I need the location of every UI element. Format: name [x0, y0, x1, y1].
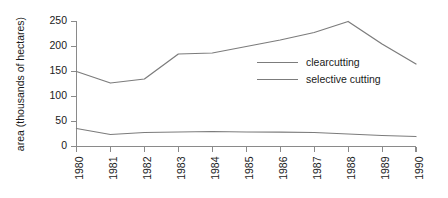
line-chart: area (thousands of hectares) 0 50 100 15… [0, 0, 448, 198]
x-tick-label-1983: 1983 [175, 156, 187, 180]
y-tick-label-0: 0 [61, 139, 67, 151]
y-tick-label-200: 200 [49, 39, 67, 51]
y-axis-ticks: 0 50 100 150 200 250 [49, 14, 76, 151]
x-tick-label-1986: 1986 [277, 156, 289, 180]
x-tick-label-1989: 1989 [379, 156, 391, 180]
x-tick-label-1990: 1990 [413, 156, 425, 180]
y-axis-title: area (thousands of hectares) [14, 17, 26, 151]
chart-legend: clearcutting selective cutting [257, 56, 381, 85]
y-tick-label-150: 150 [49, 64, 67, 76]
y-tick-label-50: 50 [55, 114, 67, 126]
x-tick-label-1984: 1984 [209, 156, 221, 180]
series-line-selective-cutting [77, 129, 417, 137]
legend-label-clearcutting: clearcutting [306, 56, 360, 68]
chart-container: area (thousands of hectares) 0 50 100 15… [0, 0, 448, 198]
legend-label-selective-cutting: selective cutting [306, 73, 381, 85]
x-tick-label-1981: 1981 [107, 156, 119, 180]
x-tick-label-1988: 1988 [345, 156, 357, 180]
x-tick-label-1980: 1980 [73, 156, 85, 180]
x-axis-ticks: 1980198119821983198419851986198719881989… [73, 147, 425, 180]
x-tick-label-1985: 1985 [243, 156, 255, 180]
y-tick-label-250: 250 [49, 14, 67, 26]
x-tick-label-1982: 1982 [141, 156, 153, 180]
x-tick-label-1987: 1987 [311, 156, 323, 180]
y-tick-label-100: 100 [49, 89, 67, 101]
